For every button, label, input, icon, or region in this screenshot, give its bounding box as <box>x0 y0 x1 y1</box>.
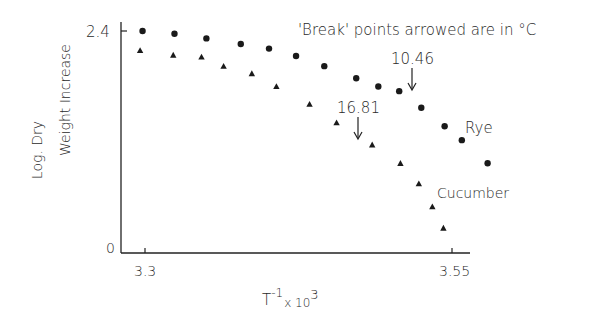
rye-data-point <box>375 83 381 89</box>
rye-data-point <box>321 63 327 69</box>
cucumber-data-point <box>273 83 279 89</box>
y-tick-label-top: 2.4 <box>86 23 110 41</box>
break-points-annotation: 'Break' points arrowed are in °C <box>298 21 536 39</box>
cucumber-data-point <box>416 180 422 186</box>
series-label-cucumber: Cucumber <box>437 185 509 201</box>
cucumber-data-point <box>137 47 143 53</box>
x-axis-label: T-1x 103 <box>262 286 319 310</box>
rye-data-point <box>293 53 299 59</box>
cucumber-data-point <box>333 119 339 125</box>
rye-data-point <box>238 41 244 47</box>
y-axis-label-line2: Weight Increase <box>57 44 73 156</box>
rye-data-point <box>266 45 272 51</box>
x-tick-label-left: 3.3 <box>134 263 156 279</box>
scatter-chart: 2.4 0 3.3 3.55 Log. Dry Weight Increase … <box>0 0 590 326</box>
cucumber-data-point <box>440 225 446 231</box>
cucumber-data-point <box>198 54 204 60</box>
cucumber-data-point <box>220 63 226 69</box>
rye-data-point <box>484 160 490 166</box>
cucumber-data-point <box>306 101 312 107</box>
break-label-cucumber: 16.81 <box>337 99 380 117</box>
break-label-rye: 10.46 <box>391 50 434 68</box>
rye-data-point <box>459 137 465 143</box>
rye-data-point <box>203 35 209 41</box>
x-tick-label-right: 3.55 <box>439 263 470 279</box>
y-axis-label-line1: Log. Dry <box>29 121 45 179</box>
cucumber-data-point <box>429 204 435 210</box>
cucumber-data-point <box>170 52 176 58</box>
rye-data-point <box>139 28 145 34</box>
cucumber-data-point <box>397 160 403 166</box>
y-tick-label-bottom: 0 <box>106 240 115 256</box>
series-label-rye: Rye <box>465 119 493 137</box>
rye-data-point <box>441 123 447 129</box>
cucumber-data-point <box>369 142 375 148</box>
cucumber-data-point <box>249 70 255 76</box>
rye-data-point <box>171 31 177 37</box>
rye-data-point <box>353 75 359 81</box>
rye-data-point <box>418 105 424 111</box>
rye-data-point <box>396 88 402 94</box>
